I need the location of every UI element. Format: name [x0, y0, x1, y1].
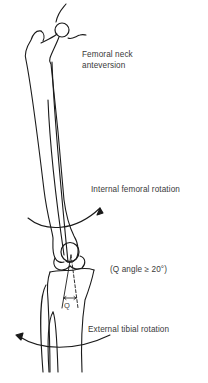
internal-femoral-rotation-label: Internal femoral rotation [91, 185, 180, 196]
femoral-head [55, 23, 69, 37]
diagram-canvas: Femoral neck anteversion Internal femora… [0, 0, 208, 383]
q-marker-label: Q [64, 301, 70, 312]
fibula [41, 285, 58, 372]
q-angle-label: (Q angle ≥ 20°) [110, 265, 167, 276]
femoral-neck-anteversion-label: Femoral neck anteversion [82, 50, 133, 71]
external-tibial-rotation-label: External tibial rotation [88, 325, 169, 336]
acetabulum-lines [56, 4, 86, 39]
